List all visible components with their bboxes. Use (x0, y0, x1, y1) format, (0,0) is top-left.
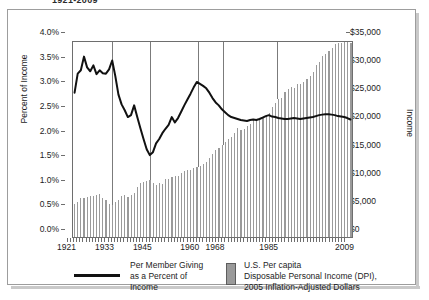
left-axis-tick-mark (61, 106, 65, 107)
line-series-giving-percent (73, 42, 352, 237)
x-axis-year-tick (247, 238, 248, 242)
x-axis-year-tick (234, 238, 235, 242)
right-axis-title: Income (405, 83, 415, 163)
x-axis-year-tick (272, 238, 273, 242)
x-axis-year-tick (130, 238, 131, 242)
x-axis-year-tick (123, 238, 124, 242)
x-axis-year-tick (114, 238, 115, 242)
x-axis-year-tick (300, 238, 301, 242)
x-axis-year-tick (73, 238, 74, 242)
x-axis-year-tick (265, 238, 266, 242)
x-axis-tick-label: 1945 (133, 242, 152, 252)
left-axis-tick-label: 3.0% (0, 77, 59, 85)
x-axis-year-tick (161, 238, 162, 242)
x-axis-year-tick (212, 238, 213, 242)
x-axis-year-tick (221, 238, 222, 242)
x-axis-year-tick (313, 238, 314, 242)
left-axis-tick-mark (61, 32, 65, 33)
x-axis-year-tick (310, 238, 311, 242)
x-axis-year-tick (243, 238, 244, 242)
left-axis-tick-label: 1.0% (0, 176, 59, 184)
x-axis-year-tick (120, 238, 121, 242)
x-axis-year-tick (98, 238, 99, 242)
giving-percent-polyline (75, 57, 351, 155)
x-axis-year-tick (256, 238, 257, 242)
x-axis-year-tick (158, 238, 159, 242)
x-axis-year-tick (316, 238, 317, 242)
x-axis-year-tick (206, 238, 207, 242)
left-axis-tick-mark (61, 229, 65, 230)
x-axis-year-tick (193, 238, 194, 242)
x-axis-year-tick (117, 238, 118, 242)
x-axis-year-tick (180, 238, 181, 242)
right-axis-tick-label: $10,000 (350, 169, 420, 177)
x-axis-tick-label: 1985 (259, 242, 278, 252)
x-axis-year-tick (136, 238, 137, 242)
x-axis-year-tick (168, 238, 169, 242)
left-axis-tick-mark (61, 204, 65, 205)
chart-legend: Per Member Givingas a Percent ofIncome U… (68, 259, 408, 293)
x-axis-year-tick (92, 238, 93, 242)
x-axis-year-tick (174, 238, 175, 242)
x-axis-year-tick (231, 238, 232, 242)
legend-line-label-line: Per Member Giving (130, 260, 203, 271)
x-axis-year-tick (253, 238, 254, 242)
x-axis-year-tick (303, 238, 304, 242)
x-axis-year-tick (269, 238, 270, 242)
x-axis-year-tick (190, 238, 191, 242)
legend-line-label: Per Member Givingas a Percent ofIncome (130, 260, 203, 293)
x-axis-year-tick (139, 238, 140, 242)
x-axis-tick-label: 1921 (57, 242, 76, 252)
right-axis-tick-label: $35,000 (350, 28, 420, 36)
chart-screenshot: 1921-2009 Percent of Income Income 4.0%3… (0, 0, 429, 300)
left-axis-tick-label: 2.0% (0, 127, 59, 135)
clipped-chart-title: 1921-2009 (52, 0, 252, 3)
x-axis-year-tick (237, 238, 238, 242)
x-axis-year-tick (183, 238, 184, 242)
right-axis-tick-label: $25,000 (350, 84, 420, 92)
left-axis-tick-mark (61, 131, 65, 132)
x-axis-year-tick (127, 238, 128, 242)
x-axis-year-tick (149, 238, 150, 242)
x-axis-year-tick (104, 238, 105, 242)
x-axis-year-tick (218, 238, 219, 242)
legend-bar-label-line: 2005 Inflation-Adjusted Dollars (244, 282, 377, 293)
x-axis-year-tick (344, 238, 345, 242)
left-axis-tick-label: 4.0% (0, 28, 59, 36)
x-axis-year-tick (164, 238, 165, 242)
legend-line-label-line: as a Percent of (130, 271, 203, 282)
x-axis-year-tick (329, 238, 330, 242)
card-shadow-right (416, 13, 419, 289)
x-axis-year-tick (202, 238, 203, 242)
left-axis-tick-label: 0.0% (0, 225, 59, 233)
x-axis-year-tick (281, 238, 282, 242)
x-axis-year-tick (228, 238, 229, 242)
x-axis-year-tick (155, 238, 156, 242)
x-axis-year-tick (307, 238, 308, 242)
x-axis-year-tick (86, 238, 87, 242)
right-axis-tick-label: $5,000 (350, 197, 420, 205)
x-axis-year-tick (196, 238, 197, 242)
x-axis-year-tick (187, 238, 188, 242)
left-axis-tick-mark (61, 180, 65, 181)
left-axis-tick-label: 1.5% (0, 151, 59, 159)
x-axis-year-tick (89, 238, 90, 242)
x-axis-year-tick (79, 238, 80, 242)
x-axis-year-tick (215, 238, 216, 242)
left-axis-tick-label: 0.5% (0, 200, 59, 208)
legend-bar-label: U.S. Per capitaDisposable Personal Incom… (244, 260, 377, 293)
legend-line-swatch (74, 274, 120, 277)
x-axis-year-tick (319, 238, 320, 242)
legend-line-label-line: Income (130, 282, 203, 293)
left-axis-tick-label: 3.5% (0, 53, 59, 61)
x-axis-year-tick (335, 238, 336, 242)
x-axis-year-tick (142, 238, 143, 242)
x-axis-year-tick (111, 238, 112, 242)
x-axis-year-tick (240, 238, 241, 242)
x-axis-tick-label: 1933 (95, 242, 114, 252)
x-axis-year-tick (108, 238, 109, 242)
x-axis-year-tick (70, 238, 71, 242)
x-axis-year-tick (259, 238, 260, 242)
x-axis-year-tick (76, 238, 77, 242)
x-axis-year-tick (341, 238, 342, 242)
